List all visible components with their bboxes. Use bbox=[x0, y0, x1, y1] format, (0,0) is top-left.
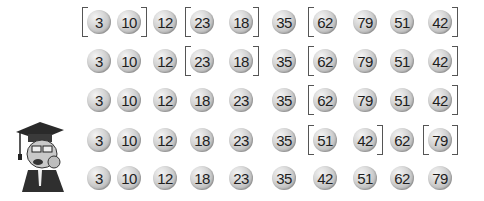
number-ball: 42 bbox=[313, 166, 337, 190]
close-bracket bbox=[452, 85, 458, 115]
number-ball: 79 bbox=[428, 128, 452, 152]
professor-icon bbox=[10, 118, 68, 192]
number-ball: 3 bbox=[87, 166, 111, 190]
number-ball: 79 bbox=[353, 88, 377, 112]
number-ball: 10 bbox=[117, 88, 141, 112]
number-ball: 42 bbox=[428, 49, 452, 73]
number-ball: 42 bbox=[428, 10, 452, 34]
number-ball: 62 bbox=[390, 166, 414, 190]
number-ball: 51 bbox=[390, 88, 414, 112]
number-ball: 18 bbox=[229, 49, 253, 73]
number-ball: 35 bbox=[272, 49, 296, 73]
open-bracket bbox=[185, 46, 191, 76]
number-ball: 42 bbox=[353, 128, 377, 152]
number-ball: 3 bbox=[87, 128, 111, 152]
number-ball: 12 bbox=[153, 88, 177, 112]
close-bracket bbox=[452, 125, 458, 155]
number-ball: 23 bbox=[190, 49, 214, 73]
number-ball: 3 bbox=[87, 10, 111, 34]
number-ball: 79 bbox=[428, 166, 452, 190]
number-ball: 62 bbox=[313, 49, 337, 73]
number-ball: 12 bbox=[153, 49, 177, 73]
number-ball: 62 bbox=[313, 10, 337, 34]
number-ball: 35 bbox=[272, 128, 296, 152]
close-bracket bbox=[452, 7, 458, 37]
number-ball: 23 bbox=[190, 10, 214, 34]
number-ball: 10 bbox=[117, 128, 141, 152]
open-bracket bbox=[308, 125, 314, 155]
number-ball: 23 bbox=[229, 88, 253, 112]
open-bracket bbox=[423, 125, 429, 155]
close-bracket bbox=[452, 46, 458, 76]
number-ball: 12 bbox=[153, 128, 177, 152]
number-ball: 18 bbox=[190, 88, 214, 112]
number-ball: 10 bbox=[117, 166, 141, 190]
open-bracket bbox=[308, 85, 314, 115]
number-ball: 18 bbox=[190, 166, 214, 190]
close-bracket bbox=[253, 7, 259, 37]
number-ball: 23 bbox=[229, 128, 253, 152]
open-bracket bbox=[308, 7, 314, 37]
open-bracket bbox=[82, 7, 88, 37]
number-ball: 62 bbox=[313, 88, 337, 112]
number-ball: 35 bbox=[272, 166, 296, 190]
number-ball: 51 bbox=[390, 49, 414, 73]
number-ball: 3 bbox=[87, 88, 111, 112]
number-ball: 10 bbox=[117, 10, 141, 34]
number-ball: 12 bbox=[153, 10, 177, 34]
number-ball: 12 bbox=[153, 166, 177, 190]
sort-diagram: 3101223183562795142310122318356279514231… bbox=[0, 0, 484, 201]
open-bracket bbox=[308, 46, 314, 76]
number-ball: 79 bbox=[353, 49, 377, 73]
number-ball: 18 bbox=[190, 128, 214, 152]
number-ball: 51 bbox=[313, 128, 337, 152]
number-ball: 23 bbox=[229, 166, 253, 190]
number-ball: 35 bbox=[272, 88, 296, 112]
number-ball: 10 bbox=[117, 49, 141, 73]
number-ball: 35 bbox=[272, 10, 296, 34]
number-ball: 79 bbox=[353, 10, 377, 34]
number-ball: 18 bbox=[229, 10, 253, 34]
close-bracket bbox=[377, 125, 383, 155]
close-bracket bbox=[253, 46, 259, 76]
open-bracket bbox=[185, 7, 191, 37]
number-ball: 51 bbox=[390, 10, 414, 34]
close-bracket bbox=[141, 7, 147, 37]
number-ball: 3 bbox=[87, 49, 111, 73]
number-ball: 42 bbox=[428, 88, 452, 112]
number-ball: 51 bbox=[353, 166, 377, 190]
number-ball: 62 bbox=[390, 128, 414, 152]
